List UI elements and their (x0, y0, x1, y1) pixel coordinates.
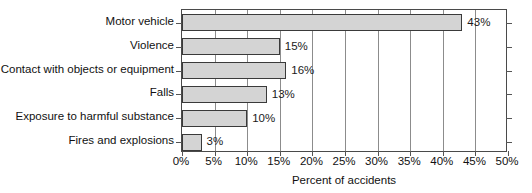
bar (182, 86, 267, 103)
category-label: Exposure to harmful substance (15, 111, 174, 123)
value-axis-labels: 0%5%10%15%20%25%30%35%40%45%50% (181, 156, 507, 172)
bar-value-label: 3% (207, 136, 224, 148)
category-tick-left (176, 23, 182, 24)
category-label: Violence (130, 40, 174, 52)
bar-value-label: 10% (252, 113, 275, 125)
category-label: Fires and explosions (69, 135, 174, 147)
x-axis-tick-label: 0% (173, 156, 190, 168)
x-axis-tick-label: 35% (398, 156, 421, 168)
bar-row: 3% (182, 134, 506, 151)
bar-value-label: 15% (285, 41, 308, 53)
bar-row: 15% (182, 38, 506, 55)
bar-row: 13% (182, 86, 506, 103)
x-axis-tick-label: 20% (300, 156, 323, 168)
x-axis-tick-label: 5% (205, 156, 222, 168)
category-tick-left (176, 142, 182, 143)
bar-value-label: 13% (272, 89, 295, 101)
bar-row: 16% (182, 62, 506, 79)
category-label: Motor vehicle (106, 16, 174, 28)
category-tick-left (176, 47, 182, 48)
x-axis-title: Percent of accidents (181, 175, 507, 187)
category-tick-right (506, 142, 512, 143)
category-tick-right (506, 118, 512, 119)
bars-layer: 43%15%16%13%10%3% (182, 10, 506, 151)
bar (182, 110, 247, 127)
category-tick-right (506, 94, 512, 95)
bar (182, 134, 202, 151)
category-tick-left (176, 118, 182, 119)
bar-row: 10% (182, 110, 506, 127)
bar-value-label: 16% (291, 65, 314, 77)
bar-chart: Motor vehicleViolenceContact with object… (0, 0, 532, 193)
bar-row: 43% (182, 14, 506, 31)
x-axis-tick-label: 40% (430, 156, 453, 168)
category-tick-right (506, 23, 512, 24)
bar (182, 38, 280, 55)
category-tick-left (176, 71, 182, 72)
category-tick-right (506, 71, 512, 72)
gridline (508, 10, 509, 151)
bar (182, 14, 462, 31)
x-axis-tick-label: 15% (267, 156, 290, 168)
x-axis-tick-label: 30% (365, 156, 388, 168)
bar (182, 62, 286, 79)
plot-area: 43%15%16%13%10%3% (181, 9, 507, 152)
x-axis-tick-label: 10% (235, 156, 258, 168)
x-axis-tick-label: 25% (332, 156, 355, 168)
bar-value-label: 43% (467, 17, 490, 29)
category-axis-labels: Motor vehicleViolenceContact with object… (0, 9, 174, 152)
category-label: Falls (150, 87, 174, 99)
x-axis-tick-label: 45% (463, 156, 486, 168)
category-tick-right (506, 47, 512, 48)
category-tick-left (176, 94, 182, 95)
x-axis-tick-label: 50% (495, 156, 518, 168)
category-label: Contact with objects or equipment (1, 64, 174, 76)
